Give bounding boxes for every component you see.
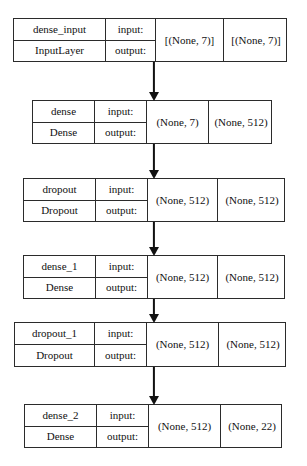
input-shape-value: [(None, 7)] [156, 19, 223, 61]
layer-name: dropout_1 [15, 323, 94, 345]
input-shape-value: (None, 512) [148, 256, 217, 298]
layer-node-dense_1: dense_1 Dense input: output: (None, 512)… [23, 255, 285, 299]
input-shape-value: (None, 512) [147, 323, 218, 366]
output-label: output: [96, 278, 147, 299]
layer-io-label-column: input: output: [96, 179, 148, 221]
output-shape-value: (None, 512) [209, 101, 272, 143]
layer-output-shape-column: (None, 512) [209, 101, 272, 143]
connector-line [153, 367, 155, 396]
input-label: input: [95, 323, 146, 345]
layer-node-dense_input: dense_input InputLayer input: output: [(… [13, 18, 287, 62]
layer-output-shape-column: (None, 512) [218, 256, 285, 298]
layer-io-label-column: input: output: [106, 19, 156, 61]
output-shape-value: (None, 22) [221, 405, 282, 447]
output-label: output: [96, 201, 147, 222]
layer-input-shape-column: (None, 512) [148, 179, 218, 221]
connector-line [153, 144, 155, 170]
layer-name-column: dense_1 Dense [24, 256, 96, 298]
layer-name-column: dense Dense [33, 101, 95, 143]
layer-output-shape-column: [(None, 7)] [224, 19, 287, 61]
input-shape-value: (None, 512) [149, 405, 220, 447]
arrow-head-icon [149, 314, 159, 323]
layer-node-dense_2: dense_2 Dense input: output: (None, 512)… [24, 404, 282, 448]
layer-input-shape-column: (None, 7) [147, 101, 209, 143]
input-label: input: [96, 256, 147, 278]
layer-input-shape-column: [(None, 7)] [156, 19, 224, 61]
layer-name-column: dropout Dropout [24, 179, 96, 221]
input-shape-value: (None, 512) [148, 179, 217, 221]
layer-type: InputLayer [14, 41, 105, 62]
layer-name: dense [33, 101, 94, 123]
layer-name: dense_input [14, 19, 105, 41]
input-shape-value: (None, 7) [147, 101, 208, 143]
input-label: input: [95, 101, 146, 123]
layer-name: dense_2 [25, 405, 96, 427]
layer-name-column: dense_2 Dense [25, 405, 97, 447]
connector-line [153, 299, 155, 314]
layer-input-shape-column: (None, 512) [148, 256, 218, 298]
layer-input-shape-column: (None, 512) [149, 405, 221, 447]
layer-output-shape-column: (None, 22) [221, 405, 282, 447]
layer-io-label-column: input: output: [95, 323, 147, 366]
output-shape-value: [(None, 7)] [224, 19, 287, 61]
layer-io-label-column: input: output: [96, 256, 148, 298]
layer-name: dense_1 [24, 256, 95, 278]
layer-io-label-column: input: output: [97, 405, 149, 447]
output-label: output: [95, 123, 146, 144]
input-label: input: [106, 19, 155, 41]
layer-name-column: dropout_1 Dropout [15, 323, 95, 366]
output-label: output: [95, 345, 146, 366]
layer-node-dropout: dropout Dropout input: output: (None, 51… [23, 178, 285, 222]
arrow-head-icon [149, 396, 159, 405]
layer-node-dropout_1: dropout_1 Dropout input: output: (None, … [14, 322, 286, 367]
layer-output-shape-column: (None, 512) [218, 179, 285, 221]
layer-name-column: dense_input InputLayer [14, 19, 106, 61]
connector-line [153, 62, 155, 92]
layer-name: dropout [24, 179, 95, 201]
model-architecture-diagram: dense_input InputLayer input: output: [(… [0, 0, 307, 466]
output-shape-value: (None, 512) [218, 256, 285, 298]
output-label: output: [106, 41, 155, 62]
layer-type: Dropout [24, 201, 95, 222]
arrow-head-icon [149, 247, 159, 256]
layer-type: Dropout [15, 345, 94, 366]
layer-input-shape-column: (None, 512) [147, 323, 219, 366]
layer-type: Dense [24, 278, 95, 299]
output-label: output: [97, 427, 148, 448]
arrow-head-icon [149, 170, 159, 179]
layer-type: Dense [25, 427, 96, 448]
layer-output-shape-column: (None, 512) [219, 323, 286, 366]
connector-line [153, 222, 155, 247]
output-shape-value: (None, 512) [219, 323, 286, 366]
input-label: input: [96, 179, 147, 201]
output-shape-value: (None, 512) [218, 179, 285, 221]
input-label: input: [97, 405, 148, 427]
layer-node-dense: dense Dense input: output: (None, 7) (No… [32, 100, 272, 144]
arrow-head-icon [149, 92, 159, 101]
layer-io-label-column: input: output: [95, 101, 147, 143]
layer-type: Dense [33, 123, 94, 144]
